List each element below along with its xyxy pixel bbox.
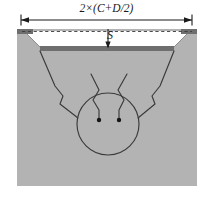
- width-dimension-line: [21, 15, 192, 26]
- crack-endpoint-dot-right: [117, 118, 121, 122]
- width-dimension-label: 2×(C+D/2): [0, 3, 213, 15]
- ledge-block-right: [181, 29, 197, 34]
- depth-dimension-label: S: [107, 29, 113, 41]
- trench-cross-section-figure: 2×(C+D/2) S: [0, 0, 213, 199]
- crack-endpoint-dot-left: [97, 118, 101, 122]
- trench-floor-bar: [40, 46, 174, 51]
- soil-body: [17, 29, 197, 186]
